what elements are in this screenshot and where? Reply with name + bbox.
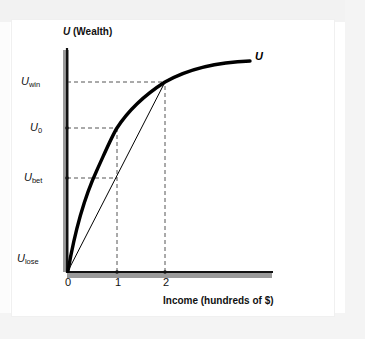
x-tick-label-2: 2 <box>156 276 176 288</box>
y-tick-label-ulose-subscript: lose <box>25 257 39 266</box>
y-tick-label-ulose: Ulose <box>17 252 39 264</box>
figure-root: U (Wealth) Income (hundreds of $) 0 1 2 … <box>0 0 365 339</box>
chart-plot-area <box>0 0 365 339</box>
x-tick-2-marker <box>163 270 167 274</box>
y-tick-label-u0: U0 <box>30 121 42 133</box>
y-tick-label-ubet-subscript: bet <box>32 176 42 185</box>
y-tick-label-ubet: Ubet <box>24 171 42 183</box>
x-axis-title: Income (hundreds of $) <box>163 295 274 306</box>
curve-name-label: U <box>255 50 263 62</box>
y-tick-label-ulose-symbol: U <box>17 252 25 264</box>
x-tick-1-marker <box>115 270 119 274</box>
y-tick-label-u0-subscript: 0 <box>38 126 42 135</box>
y-tick-label-ubet-symbol: U <box>24 171 32 183</box>
y-axis-title: U (Wealth) <box>63 26 112 37</box>
y-tick-ubet-marker <box>65 176 69 180</box>
utility-curve <box>68 61 250 271</box>
y-tick-u0-marker <box>65 126 69 130</box>
y-tick-label-uwin: Uwin <box>21 75 40 87</box>
y-tick-label-u0-symbol: U <box>30 121 38 133</box>
y-axis-title-rest: (Wealth) <box>70 26 112 37</box>
y-tick-label-uwin-subscript: win <box>29 80 40 89</box>
x-tick-label-1: 1 <box>108 276 128 288</box>
y-tick-label-uwin-symbol: U <box>21 75 29 87</box>
x-tick-label-0: 0 <box>58 276 78 288</box>
